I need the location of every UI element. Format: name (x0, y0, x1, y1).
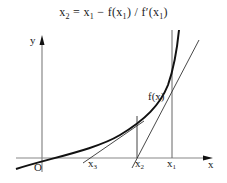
x-axis-label: x (208, 158, 214, 170)
point-label-x1: x1 (167, 157, 177, 171)
y-axis-label: y (30, 34, 36, 46)
curve-label: f(x) (148, 90, 165, 103)
y-axis-arrow-icon (40, 35, 45, 45)
point-label-x2: x2 (135, 157, 145, 171)
newton-diagram: y x O f(x) x3 x2 x1 (0, 0, 227, 183)
origin-label: O (34, 161, 42, 173)
tangent-line-1 (132, 40, 199, 168)
point-label-x3: x3 (88, 157, 98, 171)
